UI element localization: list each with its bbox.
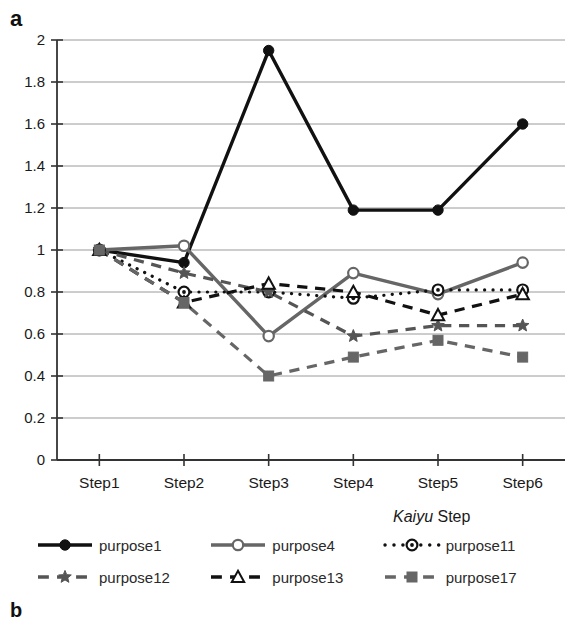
- legend-label: purpose4: [272, 537, 335, 554]
- y-tick-label: 0.6: [24, 325, 45, 342]
- data-point-marker: [516, 319, 529, 331]
- data-point-marker: [518, 352, 528, 362]
- y-tick-label: 0.8: [24, 283, 45, 300]
- legend-label: purpose12: [99, 569, 170, 586]
- legend-swatch-open-circle-icon: [209, 534, 267, 556]
- panel-label-b: b: [10, 600, 22, 618]
- y-tick-label: 1.6: [24, 115, 45, 132]
- legend-swatch-filled-square-icon: [383, 566, 441, 588]
- data-point-marker: [433, 205, 443, 215]
- legend-entry-purpose1[interactable]: purpose1: [36, 533, 209, 557]
- y-tick-label: 1.4: [24, 157, 45, 174]
- x-category-label: Step6: [502, 474, 543, 491]
- y-tick-label: 0: [37, 451, 45, 468]
- legend-label: purpose11: [446, 537, 516, 554]
- data-point-marker: [59, 570, 72, 582]
- x-axis-title: Kaiyu Step: [393, 508, 470, 526]
- data-point-marker: [347, 286, 359, 297]
- x-category-label: Step3: [248, 474, 289, 491]
- data-point-marker: [517, 119, 527, 129]
- data-point-marker: [348, 205, 358, 215]
- x-axis-title-italic: Kaiyu: [393, 508, 433, 525]
- x-category-label: Step5: [418, 474, 459, 491]
- data-point-marker: [233, 540, 243, 550]
- legend-entry-purpose17[interactable]: purpose17: [383, 565, 556, 589]
- data-point-marker: [179, 241, 189, 251]
- y-tick-label: 1: [37, 241, 45, 258]
- data-point-marker: [348, 268, 358, 278]
- x-category-label: Step2: [164, 474, 205, 491]
- legend-label: purpose13: [272, 569, 343, 586]
- y-tick-label: 0.2: [24, 409, 45, 426]
- legend-entry-purpose13[interactable]: purpose13: [209, 565, 382, 589]
- legend-entry-purpose11[interactable]: purpose11: [383, 533, 556, 557]
- data-point-marker: [407, 572, 417, 582]
- y-tick-label: 1.8: [24, 73, 45, 90]
- data-point-marker: [263, 45, 273, 55]
- y-tick-label: 1.2: [24, 199, 45, 216]
- data-point-marker: [60, 540, 70, 550]
- series-line-purpose12: [99, 250, 522, 336]
- legend-swatch-circle-dot-icon: [383, 534, 441, 556]
- y-tick-label: 2: [37, 31, 45, 48]
- data-point-marker: [347, 330, 360, 342]
- data-point-marker: [263, 331, 273, 341]
- legend-label: purpose1: [99, 537, 162, 554]
- series-markers: [93, 45, 529, 381]
- data-point-marker: [433, 285, 444, 296]
- data-point-marker: [348, 352, 358, 362]
- legend-swatch-filled-circle-icon: [36, 534, 94, 556]
- legend-swatch-open-triangle-icon: [209, 566, 267, 588]
- x-axis: [57, 454, 565, 466]
- series-lines: [99, 51, 522, 377]
- gridlines: [57, 40, 565, 418]
- data-point-marker: [433, 335, 443, 345]
- data-point-marker: [178, 267, 191, 279]
- x-category-label: Step4: [333, 474, 374, 491]
- legend-entry-purpose4[interactable]: purpose4: [209, 533, 382, 557]
- series-markers-purpose1: [94, 45, 528, 267]
- series-markers-purpose11: [94, 245, 528, 304]
- figure-panel-a: a 00.20.40.60.811.21.41.61.82 Step1Step2…: [0, 0, 583, 618]
- legend: purpose1purpose4purpose11purpose12purpos…: [36, 533, 556, 589]
- y-tick-labels: 00.20.40.60.811.21.41.61.82: [24, 31, 45, 468]
- line-chart: 00.20.40.60.811.21.41.61.82 Step1Step2St…: [0, 0, 583, 505]
- legend-swatch-star-icon: [36, 566, 94, 588]
- x-category-labels: Step1Step2Step3Step4Step5Step6: [79, 474, 543, 491]
- legend-label: purpose17: [446, 569, 517, 586]
- data-point-marker: [406, 540, 417, 551]
- data-point-marker: [94, 245, 104, 255]
- x-axis-title-rest: Step: [433, 508, 470, 525]
- x-category-label: Step1: [79, 474, 120, 491]
- legend-entry-purpose12[interactable]: purpose12: [36, 565, 209, 589]
- data-point-marker: [264, 371, 274, 381]
- data-point-marker: [179, 298, 189, 308]
- data-point-marker: [517, 257, 527, 267]
- y-tick-label: 0.4: [24, 367, 45, 384]
- y-axis: [51, 40, 63, 460]
